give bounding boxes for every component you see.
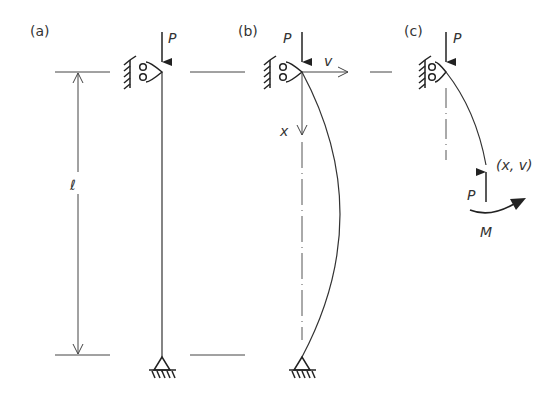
panel-c: (c) P (x, v) P M: [404, 23, 532, 240]
reaction-label: P: [467, 187, 476, 203]
roller-support-icon: [124, 56, 162, 89]
length-label: ℓ: [69, 177, 76, 193]
buckled-column-curve: [302, 72, 340, 357]
moment-arrow-icon: [470, 198, 526, 213]
reference-lines: [55, 72, 392, 355]
load-label-b: P: [283, 30, 292, 46]
x-axis-label: x: [279, 123, 289, 139]
v-axis-label: v: [324, 53, 333, 69]
pin-support-icon: [149, 357, 176, 378]
column-buckling-diagram: (a) ℓ P: [0, 0, 560, 402]
moment-label: M: [480, 224, 492, 240]
panel-a: (a) ℓ P: [30, 23, 177, 378]
pin-support-icon: [289, 357, 316, 378]
x-axis-arrow-icon: [297, 72, 307, 135]
panel-b-label: (b): [238, 23, 258, 39]
panel-c-label: (c): [404, 23, 423, 39]
roller-support-icon: [419, 56, 446, 89]
panel-a-label: (a): [30, 23, 50, 39]
partial-buckled-curve: [446, 72, 486, 165]
point-label: (x, v): [496, 157, 532, 173]
load-label-c: P: [453, 30, 462, 46]
panel-b: (b) P v x: [238, 23, 348, 378]
roller-support-icon: [264, 56, 302, 89]
length-dimension: [73, 73, 83, 354]
load-label-a: P: [168, 30, 177, 46]
